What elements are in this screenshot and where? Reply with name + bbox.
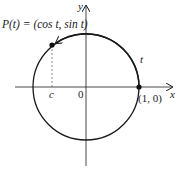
arc-t bbox=[56, 34, 139, 87]
c-label: c bbox=[49, 88, 54, 100]
unit-circle-diagram: P(t) = (cos t, sin t) y x t c 0 (1, 0) bbox=[0, 0, 178, 171]
y-axis-label: y bbox=[77, 0, 83, 12]
arc-t-label: t bbox=[140, 53, 144, 65]
point-1-0-label: (1, 0) bbox=[138, 92, 162, 105]
x-axis-label: x bbox=[169, 88, 175, 100]
origin-label: 0 bbox=[78, 88, 84, 100]
point-1-0 bbox=[136, 84, 141, 89]
p-t-label: P(t) = (cos t, sin t) bbox=[1, 18, 88, 31]
point-p bbox=[49, 42, 54, 47]
